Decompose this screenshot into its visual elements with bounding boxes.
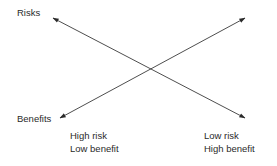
risks-arrow <box>53 18 245 118</box>
risks-label: Risks <box>17 7 40 19</box>
note-left-line1: High risk <box>70 129 119 142</box>
low-risk-high-benefit-note: Low risk High benefit <box>204 129 255 155</box>
note-left-line2: Low benefit <box>70 142 119 155</box>
benefits-label: Benefits <box>17 113 51 125</box>
note-right-line2: High benefit <box>204 142 255 155</box>
high-risk-low-benefit-note: High risk Low benefit <box>70 129 119 155</box>
note-right-line1: Low risk <box>204 129 255 142</box>
benefits-arrow <box>60 18 245 118</box>
